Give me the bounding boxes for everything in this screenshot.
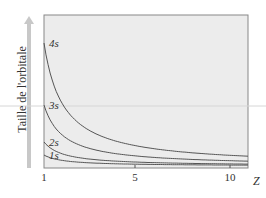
curve-label-4s: 4s bbox=[49, 37, 59, 49]
x-tick-5: 5 bbox=[132, 171, 138, 183]
curve-label-3s: 3s bbox=[48, 99, 59, 111]
x-axis-label: Z bbox=[253, 174, 260, 188]
orbital-size-diagram: 4s3s2s1s 1 5 10 Z bbox=[0, 0, 266, 198]
curve-label-1s: 1s bbox=[49, 149, 59, 161]
y-axis-label: Taille de l'orbitale bbox=[15, 30, 30, 150]
x-tick-1: 1 bbox=[41, 171, 47, 183]
plot-area bbox=[44, 15, 248, 168]
x-tick-10: 10 bbox=[225, 171, 237, 183]
curve-label-2s: 2s bbox=[49, 136, 59, 148]
